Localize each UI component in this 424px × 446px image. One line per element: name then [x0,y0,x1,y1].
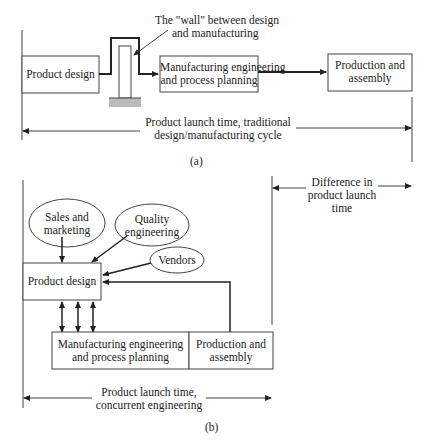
vendors-label: Vendors [150,254,204,267]
wall-base-icon [109,98,141,107]
quality-arrow [92,236,127,262]
product-design-label-a: Product design [22,68,99,81]
launch-time-label-b: Product launch time, concurrent engineer… [92,386,206,412]
wall-label: The "wall" between design and manufactur… [155,14,279,40]
wall-icon [119,46,131,98]
mfg-label-b: Manufacturing engineering and process pl… [52,338,189,364]
feedback-arrow [103,282,230,332]
mfg-label-a: Manufacturing engineering and process pl… [160,61,258,87]
caption-b: (b) [205,421,218,433]
difference-label: Difference in product launch time [300,176,384,215]
production-label-a: Production and assembly [328,59,412,85]
sales-label: Sales and marketing [29,211,105,237]
caption-a: (a) [190,155,203,167]
vendors-arrow [103,263,151,275]
quality-label: Quality engineering [115,213,189,239]
product-design-label-b: Product design [23,275,101,288]
launch-time-label-a: Product launch time, traditional design/… [140,116,296,142]
production-label-b: Production and assembly [189,338,273,364]
